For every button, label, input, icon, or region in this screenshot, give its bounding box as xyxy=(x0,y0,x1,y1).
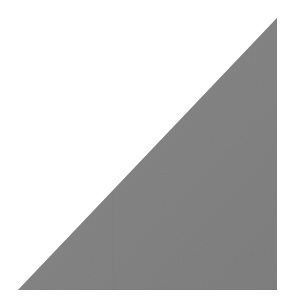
triangle-graphic xyxy=(0,0,290,308)
image-canvas xyxy=(0,0,290,308)
